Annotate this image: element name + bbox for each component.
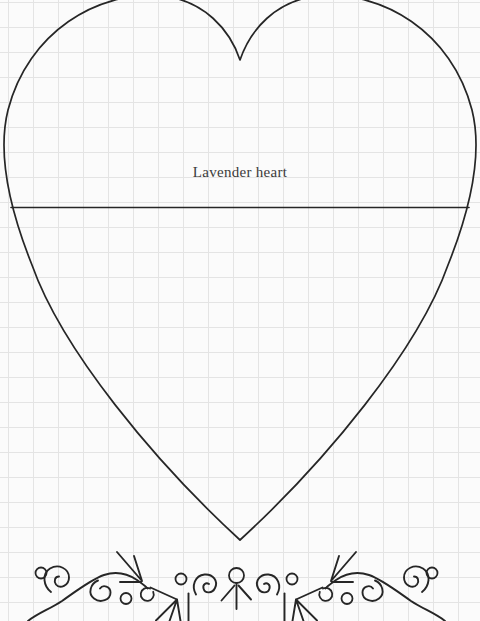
dot-ring-icon [121,593,132,604]
branch-arrow-icon [117,552,142,582]
open-ring-icon [141,588,154,601]
pattern-label: Lavender heart [0,164,480,181]
heart-template-outline [4,0,476,540]
spiral-curl-icon [194,574,216,594]
pattern-page: Lavender heart [0,0,480,621]
center-bud-motif [222,568,252,609]
spiral-curl-icon [90,581,110,601]
pattern-drawing [0,0,480,621]
bud-head-icon [229,568,244,583]
embroidery-border-right [257,552,445,621]
dot-ring-icon [176,574,187,585]
embroidery-border-left [28,552,216,621]
scroll-stem [28,573,148,621]
ray-fan-icon [151,588,181,621]
spiral-curl-icon [44,567,69,592]
